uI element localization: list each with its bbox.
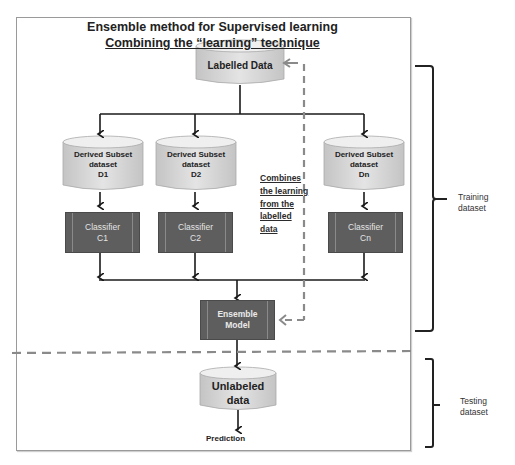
unlabeled-line2: data [200,394,276,408]
subset-d2-line1: Derived Subset [156,150,236,160]
ensemble-line2: Model [201,320,274,331]
subset-dn-line3: Dn [324,170,404,180]
annotation-line-5: data [260,223,308,236]
testing-bracket [425,359,440,447]
prediction-label: Prediction [206,434,245,443]
training-bracket [415,66,447,331]
classifier-c2: Classifier C2 [158,212,233,253]
train-test-separator [12,351,412,353]
subset-dn-line1: Derived Subset [324,150,404,160]
subset-d1-line1: Derived Subset [63,150,143,160]
testing-line1: Testing [460,396,488,407]
testing-line2: dataset [460,407,488,418]
subset-d1-line2: dataset [63,160,143,170]
ensemble-model: Ensemble Model [200,300,275,340]
labelled-data-label: Labelled Data [196,60,284,73]
training-line1: Training [458,192,488,203]
classifier-c2-line2: C2 [159,233,232,244]
training-dataset-label: Training dataset [458,192,488,214]
ensemble-line1: Ensemble [201,309,274,320]
combines-annotation: Combines the learning from the labelled … [260,172,308,236]
testing-dataset-label: Testing dataset [460,396,488,418]
annotation-line-3: from the [260,198,308,211]
classifier-c1-line2: C1 [66,233,139,244]
subset-node-d1: Derived Subset dataset D1 [63,150,143,190]
subset-d2-line2: dataset [156,160,236,170]
annotation-line-1: Combines [260,172,308,185]
diagram-subtitle: Combining the “learning” technique [16,36,409,50]
subset-dn-line2: dataset [324,160,404,170]
diagram-title: Ensemble method for Supervised learning [16,20,409,34]
classifier-c2-line1: Classifier [159,221,232,232]
unlabeled-data-node: Unlabeled data [200,380,276,410]
classifier-c1-line1: Classifier [66,221,139,232]
unlabeled-line1: Unlabeled [200,380,276,394]
annotation-line-4: labelled [260,210,308,223]
subset-node-dn: Derived Subset dataset Dn [324,150,404,190]
subset-node-d2: Derived Subset dataset D2 [156,150,236,190]
classifier-cn-line1: Classifier [329,221,402,232]
classifier-cn: Classifier Cn [328,212,403,253]
annotation-line-2: the learning [260,185,308,198]
labelled-data-node: Labelled Data [196,55,284,79]
training-line2: dataset [458,203,488,214]
subset-d2-line3: D2 [156,170,236,180]
classifier-cn-line2: Cn [329,233,402,244]
subset-d1-line3: D1 [63,170,143,180]
classifier-c1: Classifier C1 [65,212,140,253]
